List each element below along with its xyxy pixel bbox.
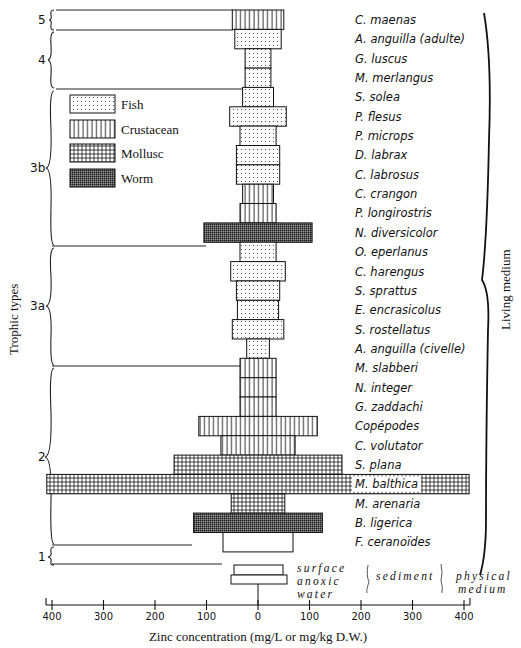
trophic-label-2: 2 bbox=[38, 450, 46, 464]
trophic-label-4: 4 bbox=[38, 53, 46, 67]
x-tick-label: 200 bbox=[351, 611, 370, 622]
bar-n-integer bbox=[240, 378, 276, 397]
bar-m-merlangus bbox=[245, 68, 271, 87]
legend: Fish Crustacean Mollusc Worm bbox=[70, 95, 179, 187]
species-labels: C. maenasA. anguilla (adulte)G. luscusM.… bbox=[352, 13, 465, 550]
living-medium-brace bbox=[480, 13, 490, 575]
species-label: A. anguilla (adulte) bbox=[354, 32, 465, 46]
bar-c-crangon bbox=[243, 184, 274, 203]
x-tick-label: 100 bbox=[197, 611, 216, 622]
x-tick-label: 300 bbox=[403, 611, 422, 622]
bar-m-arenaria bbox=[231, 494, 285, 513]
legend-swatch-mollusc bbox=[70, 144, 115, 162]
species-label: M. balthica bbox=[355, 477, 418, 491]
trophic-label-3b: 3b bbox=[30, 161, 45, 175]
bar-b-ligerica bbox=[194, 513, 323, 532]
zinc-trophic-chart: 5 4 3b 3a 2 1 Trophic types Fish Crustac… bbox=[0, 0, 521, 648]
legend-swatch-fish bbox=[70, 95, 115, 113]
species-label: C. harengus bbox=[355, 265, 424, 279]
bar-a-anguilla-adulte bbox=[235, 29, 281, 48]
bar-s-sprattus bbox=[236, 281, 279, 300]
bar-surface bbox=[234, 565, 283, 575]
x-tick-label: 100 bbox=[300, 611, 319, 622]
species-label: A. anguilla (civelle) bbox=[354, 342, 465, 356]
species-label: S. sprattus bbox=[355, 284, 417, 298]
legend-label-crustacean: Crustacean bbox=[121, 122, 179, 137]
species-label: N. diversicolor bbox=[355, 226, 439, 240]
bar-o-eperlanus bbox=[240, 242, 276, 261]
right-label-living-medium: Living medium bbox=[498, 249, 513, 330]
species-label: C. volutator bbox=[355, 439, 424, 453]
bar-e-encrasicolus bbox=[237, 300, 278, 319]
legend-swatch-crustacean bbox=[70, 120, 115, 138]
species-label: Copépodes bbox=[355, 419, 419, 433]
species-label: P. microps bbox=[355, 129, 413, 143]
species-label: F. ceranoïdes bbox=[355, 535, 431, 549]
bar-s-plana bbox=[174, 455, 342, 474]
species-label: B. ligerica bbox=[355, 516, 412, 530]
bar-c-maenas bbox=[232, 10, 283, 29]
species-label: G. luscus bbox=[355, 52, 407, 66]
bar-c-harengus bbox=[231, 262, 286, 281]
trophic-label-3a: 3a bbox=[30, 299, 45, 313]
species-label: C. crangon bbox=[355, 187, 417, 201]
species-label: S. solea bbox=[355, 90, 400, 104]
y-axis-label: Trophic types bbox=[6, 284, 21, 355]
species-label: P. longirostris bbox=[355, 206, 432, 220]
species-label: M. slabberi bbox=[355, 361, 419, 375]
x-tick-label: 0 bbox=[255, 611, 261, 622]
trophic-label-1: 1 bbox=[38, 550, 46, 564]
bar-g-luscus bbox=[245, 49, 271, 68]
species-label: S. plana bbox=[355, 458, 402, 472]
bar-g-zaddachi bbox=[240, 397, 276, 416]
bar-s-solea bbox=[243, 87, 274, 106]
legend-label-mollusc: Mollusc bbox=[121, 146, 164, 161]
species-label: S. rostellatus bbox=[355, 323, 430, 337]
legend-label-worm: Worm bbox=[121, 171, 153, 186]
bars bbox=[47, 10, 469, 552]
x-tick-labels: 4003002001000100200300400 bbox=[42, 611, 473, 622]
bar-d-labrax bbox=[236, 146, 279, 165]
x-tick-label: 200 bbox=[145, 611, 164, 622]
bar-m-slabberi bbox=[240, 358, 276, 377]
legend-label-fish: Fish bbox=[121, 97, 144, 112]
bar-a-anguilla-civelle bbox=[247, 339, 270, 358]
bar-cop-podes bbox=[199, 416, 317, 435]
species-label: G. zaddachi bbox=[355, 400, 424, 414]
label-physical: physical bbox=[455, 570, 512, 583]
x-tick-label: 300 bbox=[94, 611, 113, 622]
label-sediment: sediment bbox=[376, 570, 434, 582]
x-axis-label: Zinc concentration (mg/L or mg/kg D.W.) bbox=[149, 629, 367, 644]
trophic-label-5: 5 bbox=[38, 13, 46, 27]
bar-n-diversicolor bbox=[204, 223, 312, 242]
bar-c-volutator bbox=[221, 436, 295, 455]
species-label: C. maenas bbox=[355, 13, 416, 27]
label-anoxic: anoxic bbox=[297, 575, 341, 587]
species-label: N. integer bbox=[355, 381, 413, 395]
label-surface: surface bbox=[297, 562, 346, 575]
species-label: M. merlangus bbox=[355, 71, 433, 85]
label-water: water bbox=[297, 588, 334, 600]
bar-p-longirostris bbox=[240, 204, 276, 223]
bar-s-rostellatus bbox=[232, 320, 283, 339]
bar-f-cerano-des bbox=[223, 533, 293, 552]
species-label: C. labrosus bbox=[355, 168, 419, 182]
x-tick-label: 400 bbox=[42, 611, 61, 622]
species-label: O. eperlanus bbox=[355, 245, 428, 259]
x-tick-label: 400 bbox=[454, 611, 473, 622]
physical-medium-bars bbox=[231, 565, 287, 605]
species-label: M. arenaria bbox=[355, 497, 420, 511]
bar-c-labrosus bbox=[236, 165, 279, 184]
species-label: E. encrasicolus bbox=[355, 303, 441, 317]
species-label: D. labrax bbox=[355, 148, 407, 162]
bar-p-microps bbox=[240, 126, 276, 145]
legend-swatch-worm bbox=[70, 169, 115, 187]
species-label: P. flesus bbox=[355, 110, 401, 124]
bar-anoxic bbox=[231, 575, 287, 584]
label-medium: medium bbox=[458, 583, 508, 595]
bar-p-flesus bbox=[230, 107, 287, 126]
